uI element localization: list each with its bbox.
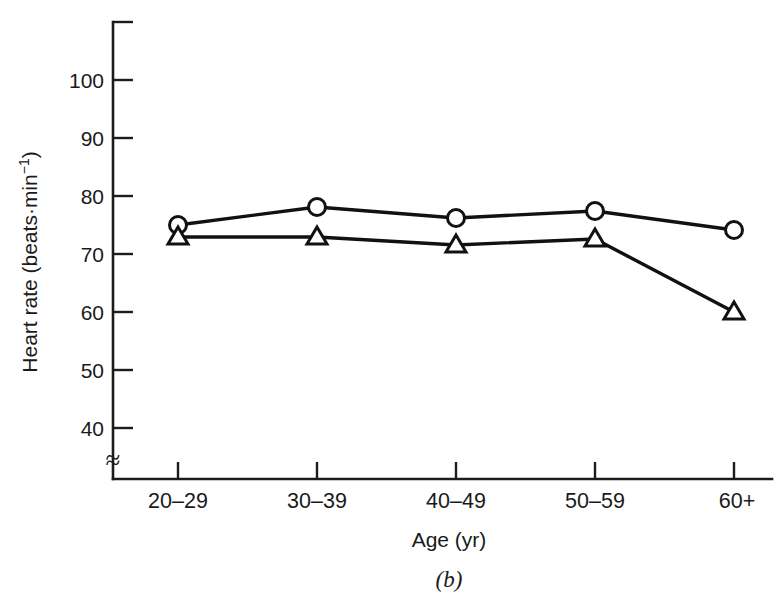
panel-caption: (b) <box>436 567 463 592</box>
data-point-triangle-60plus <box>724 302 744 319</box>
y-axis-title: Heart rate (beats·min−1) <box>16 151 41 372</box>
x-tick-label-40-49: 40–49 <box>426 489 486 513</box>
y-tick-label-50: 50 <box>81 359 104 382</box>
y-tick-labels: 100 90 80 70 60 50 40 <box>69 69 104 440</box>
x-axis-title: Age (yr) <box>412 528 487 551</box>
axes-group <box>113 22 772 479</box>
data-point-triangle-50-59 <box>585 229 605 246</box>
y-tick-label-90: 90 <box>81 127 104 150</box>
y-tick-label-100: 100 <box>69 69 104 92</box>
y-tick-label-60: 60 <box>81 301 104 324</box>
y-tick-label-80: 80 <box>81 185 104 208</box>
y-tick-label-70: 70 <box>81 243 104 266</box>
series-triangles <box>168 227 744 319</box>
y-tick-marks <box>113 22 133 428</box>
data-point-circle-30-39 <box>309 199 326 216</box>
y-axis-title-closeparen: ) <box>18 151 41 158</box>
x-tick-labels: 20–29 30–39 40–49 50–59 60+ <box>148 489 755 513</box>
data-point-circle-40-49 <box>448 210 465 227</box>
x-tick-label-20-29: 20–29 <box>148 489 208 513</box>
x-tick-marks <box>178 462 734 479</box>
x-tick-label-50-59: 50–59 <box>565 489 625 513</box>
figure-panel-b: 100 90 80 70 60 50 40 ≈ 20–29 30–39 40–4… <box>0 0 780 596</box>
y-tick-label-40: 40 <box>81 417 104 440</box>
heart-rate-line-chart: 100 90 80 70 60 50 40 ≈ 20–29 30–39 40–4… <box>0 0 780 596</box>
y-axis-title-group: Heart rate (beats·min−1) <box>16 151 41 372</box>
y-axis-break-icon: ≈ <box>106 445 121 475</box>
y-axis-title-exponent: −1 <box>16 158 32 174</box>
y-axis-title-main: Heart rate (beats·min <box>18 174 41 372</box>
x-tick-label-60plus: 60+ <box>719 489 755 513</box>
x-tick-label-30-39: 30–39 <box>287 489 347 513</box>
data-point-circle-60plus <box>726 222 743 239</box>
data-point-circle-50-59 <box>587 203 604 220</box>
